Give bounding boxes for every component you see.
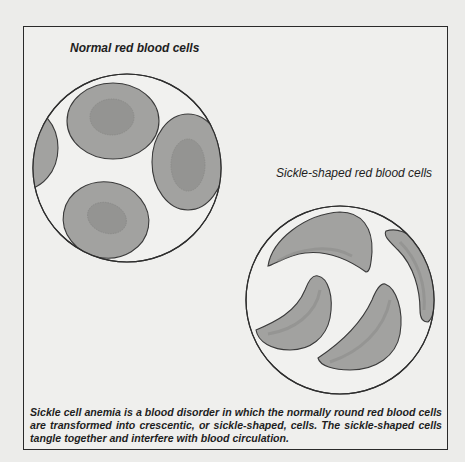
sickle-cells-view [246,206,435,394]
normal-cells-view [0,74,224,265]
normal-cells-label: Normal red blood cells [70,41,199,55]
normal-cell [152,114,224,210]
sickle-cells-label: Sickle-shaped red blood cells [276,166,432,180]
blood-cells-illustration [0,0,465,462]
figure-caption: Sickle cell anemia is a blood disorder i… [30,406,442,445]
normal-cell [67,83,159,159]
